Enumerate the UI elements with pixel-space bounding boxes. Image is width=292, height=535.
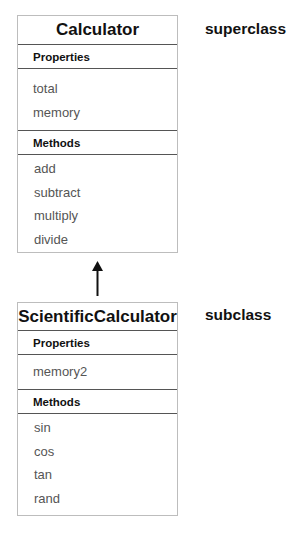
class-name: Calculator	[18, 16, 177, 45]
subclass-label: subclass	[205, 306, 271, 324]
properties-header: Properties	[18, 331, 177, 355]
inheritance-arrow-icon	[91, 261, 104, 296]
scientific-calculator-class-box: ScientificCalculator Properties memory2 …	[17, 302, 178, 516]
property-item: total	[18, 77, 177, 101]
properties-list: total memory	[18, 69, 177, 131]
methods-header: Methods	[18, 131, 177, 155]
method-item: add	[18, 157, 177, 181]
method-item: rand	[18, 487, 177, 511]
methods-list: sin cos tan rand	[18, 414, 177, 510]
methods-header: Methods	[18, 390, 177, 414]
properties-list: memory2	[18, 355, 177, 390]
superclass-label: superclass	[205, 20, 286, 38]
method-item: tan	[18, 463, 177, 487]
class-name: ScientificCalculator	[18, 303, 177, 331]
method-item: sin	[18, 416, 177, 440]
method-item: multiply	[18, 204, 177, 228]
methods-list: add subtract multiply divide	[18, 155, 177, 251]
properties-header: Properties	[18, 45, 177, 69]
method-item: cos	[18, 440, 177, 464]
property-item: memory	[18, 101, 177, 125]
method-item: subtract	[18, 181, 177, 205]
property-item: memory2	[18, 360, 177, 384]
method-item: divide	[18, 228, 177, 252]
calculator-class-box: Calculator Properties total memory Metho…	[17, 15, 178, 253]
